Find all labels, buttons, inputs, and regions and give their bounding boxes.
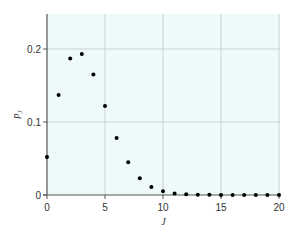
x-tick-label: 0 <box>44 202 50 213</box>
data-point <box>80 52 84 56</box>
data-point <box>115 136 119 140</box>
y-tick-label: 0.1 <box>27 117 41 128</box>
data-point <box>207 193 211 197</box>
data-point <box>161 189 165 193</box>
data-point <box>45 155 49 159</box>
data-point <box>277 193 281 197</box>
data-point <box>138 176 142 180</box>
data-point <box>231 193 235 197</box>
y-tick-label: 0 <box>35 190 41 201</box>
data-point <box>184 192 188 196</box>
x-tick-label: 20 <box>273 202 285 213</box>
data-point <box>265 193 269 197</box>
x-axis-label: J <box>161 216 166 227</box>
data-point <box>219 193 223 197</box>
x-tick-label: 10 <box>157 202 169 213</box>
y-tick-label: 0.2 <box>27 44 41 55</box>
data-point <box>254 193 258 197</box>
chart: 0510152000.10.2 J pJ <box>0 0 300 234</box>
data-point <box>242 193 246 197</box>
x-tick-label: 5 <box>102 202 108 213</box>
data-point <box>91 73 95 77</box>
y-axis-label: pJ <box>10 110 24 120</box>
data-point <box>57 93 61 97</box>
data-point <box>126 160 130 164</box>
data-point <box>173 192 177 196</box>
data-point <box>103 104 107 108</box>
data-point <box>149 185 153 189</box>
data-point <box>196 193 200 197</box>
data-point <box>68 56 72 60</box>
x-tick-label: 15 <box>215 202 227 213</box>
